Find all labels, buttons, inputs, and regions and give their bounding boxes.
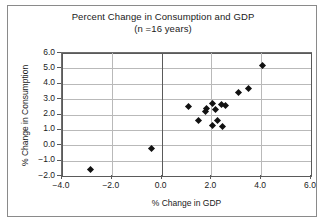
x-tick-mark	[210, 175, 211, 179]
data-point	[87, 166, 94, 173]
y-tick-label: 5.0	[27, 63, 55, 72]
plot-area	[61, 52, 312, 177]
x-tick-mark	[310, 175, 311, 179]
y-tick-mark	[57, 83, 61, 84]
x-tick-label: −2.0	[91, 181, 131, 190]
data-point	[245, 85, 252, 92]
gridline-horizontal	[62, 161, 311, 162]
y-tick-label: 3.0	[27, 94, 55, 103]
data-point	[185, 103, 192, 110]
chart-title-block: Percent Change in Consumption and GDP (n…	[8, 11, 318, 35]
gridline-vertical	[261, 53, 262, 176]
x-tick-label: 2.0	[190, 181, 230, 190]
y-tick-mark	[57, 144, 61, 145]
gridline-horizontal	[62, 68, 311, 69]
y-tick-label: 2.0	[27, 109, 55, 118]
data-point	[209, 122, 216, 129]
gridline-vertical	[162, 53, 163, 176]
y-tick-label: −2.0	[27, 171, 55, 180]
gridline-horizontal	[62, 115, 311, 116]
gridline-horizontal	[62, 176, 311, 177]
x-tick-mark	[61, 175, 62, 179]
y-tick-mark	[57, 129, 61, 130]
x-tick-label: 6.0	[290, 181, 326, 190]
gridline-vertical	[311, 53, 312, 176]
y-tick-mark	[57, 160, 61, 161]
data-point	[219, 122, 226, 129]
y-tick-mark	[57, 98, 61, 99]
gridline-horizontal	[62, 53, 311, 54]
y-tick-label: 0.0	[27, 140, 55, 149]
y-tick-mark	[57, 67, 61, 68]
data-point	[212, 106, 219, 113]
gridline-vertical	[112, 53, 113, 176]
chart-title: Percent Change in Consumption and GDP	[8, 11, 318, 23]
x-tick-mark	[260, 175, 261, 179]
y-tick-label: 1.0	[27, 124, 55, 133]
gridline-horizontal	[62, 99, 311, 100]
x-tick-label: 4.0	[240, 181, 280, 190]
y-tick-mark	[57, 52, 61, 53]
y-tick-label: −1.0	[27, 155, 55, 164]
y-tick-label: 4.0	[27, 78, 55, 87]
data-point	[195, 117, 202, 124]
gridline-horizontal	[62, 84, 311, 85]
data-point	[235, 89, 242, 96]
y-tick-label: 6.0	[27, 48, 55, 57]
y-tick-mark	[57, 114, 61, 115]
gridline-vertical	[211, 53, 212, 176]
x-tick-mark	[111, 175, 112, 179]
gridline-vertical	[62, 53, 63, 176]
gridline-horizontal	[62, 130, 311, 131]
x-axis-title: % Change in GDP	[61, 198, 312, 208]
chart-subtitle: (n =16 years)	[8, 23, 318, 35]
x-tick-label: −4.0	[41, 181, 81, 190]
data-point	[214, 117, 221, 124]
x-tick-mark	[161, 175, 162, 179]
gridline-horizontal	[62, 145, 311, 146]
x-tick-label: 0.0	[141, 181, 181, 190]
chart-container: Percent Change in Consumption and GDP (n…	[7, 5, 317, 217]
